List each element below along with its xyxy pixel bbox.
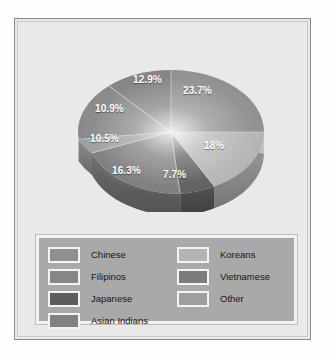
pie-label-vietnamese: 16.3% <box>112 165 141 176</box>
pie-label-filipinos: 10.9% <box>95 103 124 114</box>
pie-chart-svg <box>76 52 266 212</box>
legend-swatch-other <box>177 291 209 307</box>
legend-item-koreans: Koreans <box>177 246 270 263</box>
legend-label-koreans: Koreans <box>220 249 255 260</box>
figure-frame: 23.7% 18% 7.7% 16.3% 10.5% 10.9% 12.9% C… <box>14 18 311 340</box>
legend-item-asian-indians: Asian Indians <box>48 312 148 329</box>
legend-item-japanese: Japanese <box>48 290 148 307</box>
legend-label-asian-indians: Asian Indians <box>91 315 148 326</box>
figure-inner-frame: 23.7% 18% 7.7% 16.3% 10.5% 10.9% 12.9% C… <box>17 21 308 337</box>
pie-label-koreans: 18% <box>204 140 224 151</box>
legend-swatch-chinese <box>48 247 80 263</box>
pie-label-other: 10.5% <box>90 133 119 144</box>
legend-label-vietnamese: Vietnamese <box>220 271 270 282</box>
page-root: 23.7% 18% 7.7% 16.3% 10.5% 10.9% 12.9% C… <box>0 0 332 357</box>
legend-item-chinese: Chinese <box>48 246 148 263</box>
pie-chart: 23.7% 18% 7.7% 16.3% 10.5% 10.9% 12.9% <box>76 52 266 212</box>
legend-swatch-filipinos <box>48 269 80 285</box>
legend-label-filipinos: Filipinos <box>91 271 126 282</box>
legend-column-right: Koreans Vietnamese Other <box>177 246 270 312</box>
legend-swatch-vietnamese <box>177 269 209 285</box>
legend-label-chinese: Chinese <box>91 249 126 260</box>
pie-label-asian-indians: 12.9% <box>133 74 162 85</box>
legend-item-filipinos: Filipinos <box>48 268 148 285</box>
pie-label-japanese: 7.7% <box>163 169 186 180</box>
legend-column-left: Chinese Filipinos Japanese Asian Indians <box>48 246 148 334</box>
legend-label-other: Other <box>220 293 244 304</box>
legend-swatch-japanese <box>48 291 80 307</box>
legend-label-japanese: Japanese <box>91 293 132 304</box>
legend-item-other: Other <box>177 290 270 307</box>
legend-item-vietnamese: Vietnamese <box>177 268 270 285</box>
legend-swatch-asian-indians <box>48 313 80 329</box>
chart-legend: Chinese Filipinos Japanese Asian Indians <box>36 235 297 324</box>
legend-swatch-koreans <box>177 247 209 263</box>
pie-label-chinese: 23.7% <box>183 85 212 96</box>
